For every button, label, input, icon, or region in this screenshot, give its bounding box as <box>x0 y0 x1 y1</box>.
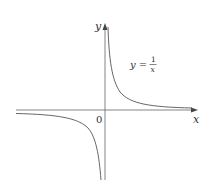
equation-denominator: x <box>151 65 156 74</box>
equation-lhs: y = <box>129 59 147 70</box>
y-axis-arrow-icon <box>103 23 108 30</box>
y-axis-label: y <box>94 20 102 33</box>
origin-label: 0 <box>96 114 102 125</box>
curve-left-branch <box>16 114 101 181</box>
graph-figure: y x 0 y = 1 x <box>0 0 214 186</box>
equation-numerator: 1 <box>151 55 156 64</box>
x-axis-label: x <box>193 113 200 126</box>
x-axis-arrow-icon <box>191 108 198 113</box>
